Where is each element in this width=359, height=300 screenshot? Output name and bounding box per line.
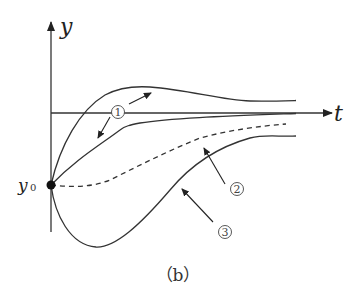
y-axis-label: y	[59, 14, 73, 39]
label-1-text: 1	[115, 106, 122, 119]
figure-caption: （b）	[156, 265, 201, 285]
arrow-3	[182, 189, 213, 222]
label-2-text: 2	[234, 183, 241, 196]
label-3-text: 3	[222, 226, 229, 239]
y0-subscript: 0	[30, 182, 36, 193]
t-axis-label: t	[334, 101, 343, 126]
y0-label: y	[17, 175, 28, 195]
arrow-1-to-lower	[98, 117, 110, 138]
arrow-1-to-upper	[129, 93, 151, 104]
trajectory-diagram: y t y 0 1 2 3 （b）	[0, 0, 359, 300]
initial-point-y0	[47, 181, 56, 190]
curve-2-dashed	[51, 124, 286, 186]
arrow-2	[204, 148, 225, 184]
